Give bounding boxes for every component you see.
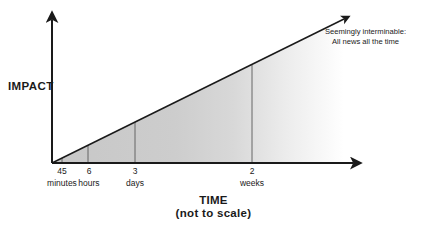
x-tick-unit: days (117, 179, 153, 188)
x-tick-value: 2 (232, 167, 272, 176)
annotation-line-2: All news all the time (325, 37, 406, 47)
x-tick-value: 6 (72, 167, 106, 176)
x-tick-unit: hours (72, 179, 106, 188)
chart-annotation: Seemingly interminable: All news all the… (325, 27, 406, 48)
annotation-line-1: Seemingly interminable: (325, 27, 406, 37)
x-axis-label: TIME (not to scale) (0, 194, 427, 219)
chart-container: IMPACT TIME (not to scale) 45 minutes 6 … (0, 0, 427, 232)
y-axis-label: IMPACT (8, 80, 54, 92)
x-axis-label-main: TIME (199, 194, 228, 206)
x-tick-3-days: 3 days (117, 167, 153, 187)
x-tick-unit: weeks (232, 179, 272, 188)
x-axis-label-sub: (not to scale) (0, 207, 427, 219)
x-tick-6-hours: 6 hours (72, 167, 106, 187)
x-tick-value: 3 (117, 167, 153, 176)
x-tick-2-weeks: 2 weeks (232, 167, 272, 187)
